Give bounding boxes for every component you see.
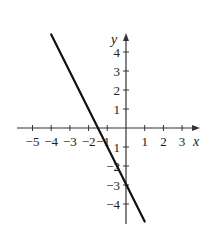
y-tick-label: 4 — [114, 45, 121, 60]
x-axis-arrow-icon — [192, 125, 200, 131]
y-tick-label: 1 — [114, 102, 121, 117]
x-tick-label: −5 — [26, 134, 40, 149]
x-axis-label: x — [192, 134, 200, 149]
x-tick-label: −4 — [44, 134, 58, 149]
x-tick-label: −3 — [63, 134, 77, 149]
y-axis-label: y — [109, 32, 118, 47]
graph: −5 −4 −3 −2 −1 1 2 3 x 4 3 2 1 1 −2 −3 −… — [0, 0, 216, 227]
y-tick-label: 3 — [114, 64, 121, 79]
y-axis-arrow-icon — [123, 33, 129, 41]
x-tick-label: 3 — [179, 134, 186, 149]
y-tick-label: 1 — [114, 140, 121, 155]
y-tick-label: 2 — [114, 83, 121, 98]
x-tick-label: −2 — [82, 134, 96, 149]
x-tick-label: 2 — [160, 134, 167, 149]
y-tick-label: −4 — [106, 197, 120, 212]
y-tick-label: −3 — [106, 178, 120, 193]
x-tick-label: 1 — [141, 134, 148, 149]
